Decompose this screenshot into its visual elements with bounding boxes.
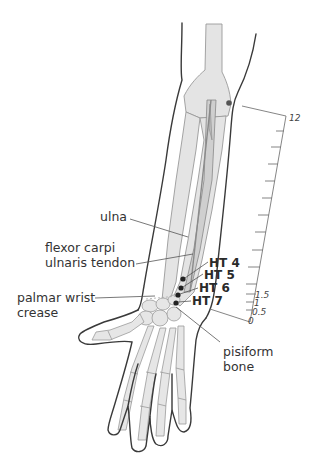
scale-label-0: 0 — [248, 316, 254, 326]
label-pisiform-line1: pisiform — [223, 344, 274, 359]
scale-label-0-5: 0.5 — [252, 307, 267, 317]
elbow-point-marker — [226, 100, 232, 106]
hand-bones — [92, 295, 186, 440]
acupoint-ht7[interactable] — [173, 300, 178, 305]
label-pisiform-line2: bone — [223, 359, 255, 374]
label-fcu-line1: flexor carpi — [45, 240, 115, 255]
forearm-illustration: 12 1.5 1 0.5 0 HT 4 HT 5 HT 6 HT 7 ulna … — [0, 0, 320, 469]
acupoint-diagram: 12 1.5 1 0.5 0 HT 4 HT 5 HT 6 HT 7 ulna … — [0, 0, 320, 469]
label-ht7: HT 7 — [192, 294, 223, 308]
label-crease-line1: palmar wrist — [17, 290, 95, 305]
label-crease-line2: crease — [17, 305, 59, 320]
acupoint-ht5[interactable] — [178, 285, 183, 290]
label-fcu-line2: ulnaris tendon — [45, 255, 135, 270]
scale-label-top: 12 — [289, 113, 301, 123]
label-ht6: HT 6 — [199, 281, 230, 295]
acupoint-ht6[interactable] — [175, 292, 180, 297]
acupoint-ht4[interactable] — [180, 276, 185, 281]
label-ht5: HT 5 — [204, 268, 235, 282]
label-ulna: ulna — [100, 209, 127, 224]
